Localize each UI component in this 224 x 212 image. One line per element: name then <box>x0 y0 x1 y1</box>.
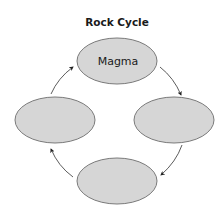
node-bottom <box>77 158 157 204</box>
node-top-label: Magma <box>98 55 139 68</box>
node-right <box>134 97 214 143</box>
arrow-right-to-bottom <box>161 145 182 175</box>
node-left <box>15 97 95 143</box>
node-top: Magma <box>77 38 157 84</box>
arrow-left-to-top <box>51 67 73 94</box>
arrow-bottom-to-left <box>51 149 73 177</box>
diagram-title: Rock Cycle <box>85 16 149 28</box>
rock-cycle-diagram: Rock Cycle Magma <box>0 0 224 212</box>
arrow-top-to-right <box>160 67 181 95</box>
